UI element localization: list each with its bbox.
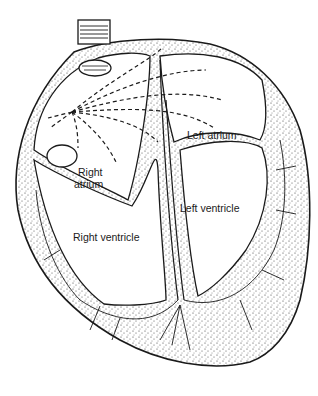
label-right-atrium-line1: Right [78,167,103,178]
label-right-atrium-line2: atrium [74,179,103,190]
label-left-atrium: Left atrium [187,130,237,141]
heart-diagram [0,0,318,396]
inferior-vena-cava [47,145,77,167]
label-left-ventricle: Left ventricle [180,203,240,214]
label-right-ventricle: Right ventricle [73,232,140,243]
